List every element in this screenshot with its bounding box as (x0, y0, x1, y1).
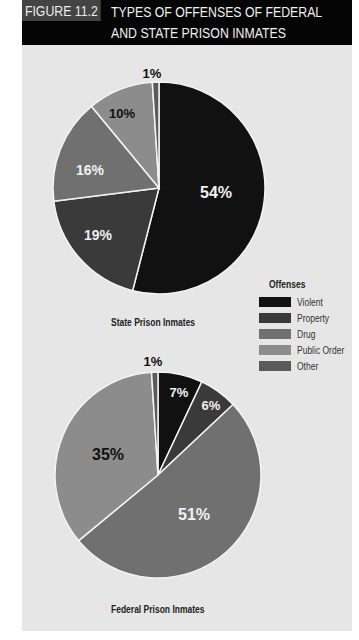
slice-label: 6% (202, 398, 221, 413)
legend-swatch (259, 297, 291, 307)
slice-label: 54% (200, 184, 232, 201)
legend-swatch (259, 313, 291, 323)
legend-swatch (259, 361, 291, 371)
legend-item-public-order: Public Order (259, 342, 353, 358)
slice-label: 51% (178, 506, 210, 523)
legend-title: Offenses (269, 279, 340, 290)
slice-label: 19% (84, 227, 113, 243)
slice-label: 10% (109, 106, 135, 121)
legend-swatch (259, 345, 291, 355)
legend-item-other: Other (259, 358, 353, 374)
slice-label: 35% (92, 446, 124, 463)
slice-label: 1% (144, 354, 163, 369)
slice-label: 1% (143, 66, 162, 81)
federal-caption: Federal Prison Inmates (111, 604, 205, 615)
legend-item-drug: Drug (259, 326, 353, 342)
legend-item-violent: Violent (259, 294, 353, 310)
legend: Offenses Violent Property Drug Public Or… (259, 279, 353, 374)
slice-label: 16% (76, 162, 105, 178)
legend-swatch (259, 329, 291, 339)
state-caption: State Prison Inmates (111, 317, 195, 328)
slice-label: 7% (170, 385, 189, 400)
legend-item-property: Property (259, 310, 353, 326)
